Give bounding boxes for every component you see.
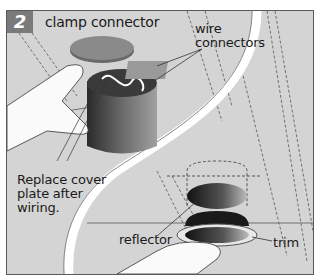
reflector-label: reflector: [119, 233, 172, 247]
wire-connectors-label-line1: wire: [195, 22, 222, 36]
step-number-badge: 2: [7, 11, 33, 33]
replace-cover-label-line2: plate after: [17, 187, 83, 201]
replace-cover-label-line1: Replace cover: [17, 173, 106, 187]
trim-label: trim: [273, 236, 299, 250]
illustration-frame: 2 clamp connector wire connectors Replac…: [6, 10, 314, 275]
clamp-connector-label: clamp connector: [45, 15, 159, 29]
replace-cover-label-line3: wiring.: [17, 201, 59, 215]
wire-connectors-label-line2: connectors: [195, 36, 265, 50]
